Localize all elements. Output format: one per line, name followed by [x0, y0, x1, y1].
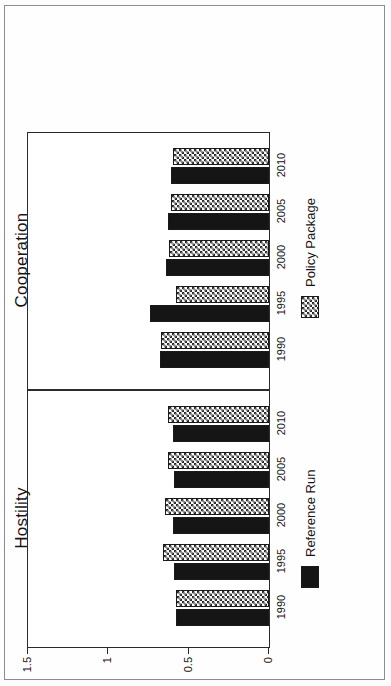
legend-item-policy-package: Policy Package	[301, 198, 319, 318]
bar-policy-package	[164, 498, 268, 515]
bar-reference-run	[150, 305, 269, 322]
legend-label-reference-run: Reference Run	[302, 469, 317, 556]
bar-group	[28, 495, 269, 535]
bar-chart-figure: 00.511.5 Reactivity Hostility 1990199520…	[9, 10, 381, 676]
bar-policy-package	[175, 286, 268, 303]
bar-group	[28, 191, 269, 231]
bar-group	[28, 283, 269, 323]
x-axis-tick-label: 1990	[275, 327, 287, 371]
legend-label-policy-package: Policy Package	[302, 198, 317, 287]
legend-swatch-policy-package	[301, 296, 319, 318]
bar-policy-package	[172, 148, 268, 165]
bar-policy-package	[167, 452, 268, 469]
scanned-page: 00.511.5 Reactivity Hostility 1990199520…	[0, 0, 391, 686]
y-axis-tick-label: 0.5	[181, 657, 193, 672]
bar-reference-run	[167, 213, 268, 230]
x-axis-tick-label: 2010	[275, 401, 287, 445]
bar-reference-run	[175, 609, 268, 626]
bar-reference-run	[174, 471, 269, 488]
bar-reference-run	[174, 563, 269, 580]
legend-swatch-reference-run	[301, 566, 319, 588]
x-axis-tick-label: 2010	[275, 143, 287, 187]
bar-group	[28, 237, 269, 277]
x-axis-tick-label: 2000	[275, 235, 287, 279]
x-axis-tick-label: 2005	[275, 189, 287, 233]
bar-policy-package	[169, 240, 269, 257]
bar-reference-run	[166, 259, 269, 276]
bar-group	[28, 403, 269, 443]
x-axis-tick-label: 2000	[275, 493, 287, 537]
bar-group	[28, 329, 269, 369]
bar-policy-package	[161, 332, 269, 349]
x-axis-tick-label: 1995	[275, 539, 287, 583]
bar-policy-package	[162, 544, 268, 561]
y-axis-tick	[268, 648, 269, 654]
legend: Reference Run Policy Package	[301, 132, 341, 648]
bar-reference-run	[159, 351, 268, 368]
bar-policy-package	[167, 406, 268, 423]
bar-reference-run	[171, 167, 269, 184]
bar-reference-run	[172, 425, 268, 442]
panel-hostility: Hostility 19901995200020052010	[27, 390, 270, 648]
bar-group	[28, 587, 269, 627]
bar-group	[28, 145, 269, 185]
y-axis-tick-label: 1.5	[21, 657, 33, 672]
plot-area-hostility	[28, 391, 269, 647]
x-axis-tick-label: 1990	[275, 585, 287, 629]
y-axis-tick	[187, 648, 188, 654]
y-axis-tick-label: 1	[101, 657, 113, 663]
bar-group	[28, 541, 269, 581]
plot-area-cooperation	[28, 133, 269, 389]
y-axis-tick	[27, 648, 28, 654]
y-axis: 00.511.5	[27, 648, 270, 676]
x-axis-tick-label: 1995	[275, 281, 287, 325]
x-axis-tick-label: 2005	[275, 447, 287, 491]
legend-item-reference-run: Reference Run	[301, 469, 319, 587]
y-axis-tick	[107, 648, 108, 654]
y-axis-tick-label: 0	[262, 657, 274, 663]
rotated-figure-wrapper: 00.511.5 Reactivity Hostility 1990199520…	[4, 5, 385, 680]
bar-policy-package	[171, 194, 269, 211]
bar-policy-package	[175, 590, 268, 607]
panel-cooperation: Cooperation 19901995200020052010	[27, 132, 270, 390]
bar-reference-run	[172, 517, 268, 534]
bar-group	[28, 449, 269, 489]
